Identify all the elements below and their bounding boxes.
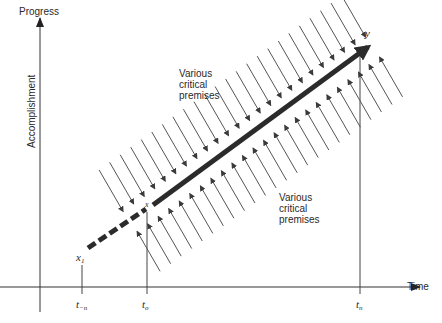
tick-label-t-n: tn bbox=[356, 299, 363, 314]
premise-arrow-icon bbox=[226, 79, 250, 121]
premise-arrow-icon bbox=[173, 117, 197, 159]
premise-arrow-icon bbox=[331, 3, 355, 45]
premise-arrow-icon bbox=[243, 156, 266, 196]
premise-arrow-icon bbox=[162, 124, 186, 166]
premise-arrow-icon bbox=[232, 163, 255, 203]
premise-arrow-icon bbox=[183, 109, 207, 151]
premise-arrow-icon bbox=[99, 170, 123, 212]
premise-arrow-icon bbox=[264, 140, 287, 180]
premise-arrow-icon bbox=[190, 194, 213, 234]
premise-arrow-icon bbox=[169, 209, 192, 249]
tick-label-t-zero: to bbox=[142, 299, 149, 314]
end-point-label: y bbox=[365, 28, 370, 39]
premise-arrow-icon bbox=[316, 103, 339, 143]
premise-arrow-icon bbox=[152, 132, 176, 174]
start-point-label: x1 bbox=[76, 252, 84, 267]
start-point-sub: 1 bbox=[81, 257, 85, 265]
past-progress-dashed bbox=[88, 209, 146, 248]
premise-arrow-icon bbox=[158, 216, 181, 256]
premise-arrow-icon bbox=[148, 224, 171, 264]
x-axis-title: Time bbox=[407, 281, 429, 292]
premise-arrow-icon bbox=[247, 64, 271, 106]
premise-arrow-icon bbox=[274, 133, 297, 173]
tick-sub: −n bbox=[79, 304, 87, 312]
premise-arrow-icon bbox=[211, 178, 234, 218]
tick-sub: o bbox=[145, 304, 149, 312]
premise-arrow-icon bbox=[221, 171, 244, 211]
lower-premise-arrows bbox=[137, 57, 402, 271]
premise-arrow-icon bbox=[278, 41, 302, 83]
upper-premise-arrows bbox=[99, 0, 365, 211]
upper-premises-label: Various critical premises bbox=[179, 68, 220, 101]
premise-arrow-icon bbox=[253, 148, 276, 188]
premise-arrow-icon bbox=[179, 201, 202, 241]
premise-arrow-icon bbox=[342, 0, 366, 37]
y-axis-label: Accomplishment bbox=[26, 75, 37, 148]
premise-arrow-icon bbox=[348, 80, 371, 120]
premise-arrow-icon bbox=[120, 155, 144, 197]
premise-arrow-icon bbox=[194, 102, 218, 144]
premise-arrow-icon bbox=[289, 33, 313, 75]
premise-arrow-icon bbox=[110, 162, 134, 204]
premise-arrow-icon bbox=[137, 231, 160, 271]
premise-arrow-icon bbox=[327, 95, 350, 135]
premise-arrow-icon bbox=[285, 125, 308, 165]
premise-arrow-icon bbox=[141, 140, 165, 182]
premise-arrow-icon bbox=[380, 57, 403, 97]
premise-arrow-icon bbox=[295, 118, 318, 158]
premise-arrow-icon bbox=[200, 186, 223, 226]
premise-arrow-icon bbox=[358, 72, 381, 112]
premise-arrow-icon bbox=[299, 26, 323, 68]
premise-arrow-icon bbox=[310, 18, 334, 60]
premise-arrow-icon bbox=[257, 56, 281, 98]
premise-arrow-icon bbox=[320, 11, 344, 53]
premise-arrow-icon bbox=[236, 71, 260, 113]
premise-arrow-icon bbox=[268, 49, 292, 91]
premise-arrow-icon bbox=[131, 147, 155, 189]
premise-arrow-icon bbox=[306, 110, 329, 150]
y-axis-title: Progress bbox=[19, 6, 59, 17]
progress-diagram bbox=[0, 0, 442, 323]
premise-arrow-icon bbox=[369, 65, 392, 105]
midpoint-label: x bbox=[145, 199, 149, 210]
tick-sub: n bbox=[359, 304, 363, 312]
lower-premises-label: Various critical premises bbox=[279, 192, 320, 225]
premise-arrow-icon bbox=[337, 87, 360, 127]
tick-label-t-minus-n: t−n bbox=[76, 299, 87, 314]
